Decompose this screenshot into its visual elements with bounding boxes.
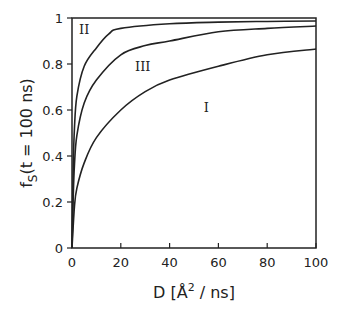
series-line-II xyxy=(72,21,316,248)
y-tick-label: 0.2 xyxy=(42,195,63,210)
chart: 020406080100 00.20.40.60.81 IIIIII D [Å2… xyxy=(0,0,346,320)
x-tick-label: 100 xyxy=(304,255,329,270)
y-tick-label: 0.6 xyxy=(42,103,63,118)
annotations: IIIIII xyxy=(79,22,209,115)
curve-label-II: II xyxy=(79,22,89,37)
x-tick-label: 80 xyxy=(259,255,276,270)
curve-label-III: III xyxy=(135,59,150,74)
x-tick-label: 0 xyxy=(68,255,76,270)
y-tick-label: 0.4 xyxy=(42,149,63,164)
series-line-I xyxy=(72,49,316,248)
y-axis-title: fS(t = 100 ns) xyxy=(17,78,40,188)
y-tick-label: 0 xyxy=(55,241,63,256)
curve-label-I: I xyxy=(204,100,209,115)
x-tick-label: 20 xyxy=(113,255,130,270)
y-tick-label: 1 xyxy=(55,11,63,26)
x-tick-label: 40 xyxy=(161,255,178,270)
x-axis-title: D [Å2 / ns] xyxy=(153,281,235,302)
x-axis: 020406080100 xyxy=(68,243,329,270)
x-tick-label: 60 xyxy=(210,255,227,270)
y-tick-label: 0.8 xyxy=(42,57,63,72)
series-line-III xyxy=(72,26,316,248)
y-axis: 00.20.40.60.81 xyxy=(42,11,72,256)
series-group xyxy=(72,21,316,248)
